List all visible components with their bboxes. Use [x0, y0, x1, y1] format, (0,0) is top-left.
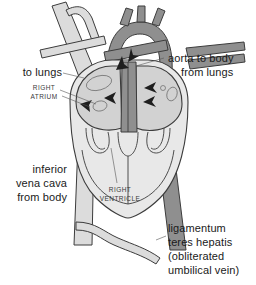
interventricular-septum — [121, 62, 137, 132]
label-right-ventricle-line2: VENTRICLE — [96, 195, 144, 203]
label-inferior-vena-cava-line3: from body — [0, 191, 67, 204]
label-right-atrium-line2: ATRIUM — [24, 93, 64, 101]
aortic-arch-branch-2 — [137, 6, 145, 22]
label-ligamentum-line3: (obliterated — [168, 250, 224, 263]
label-inferior-vena-cava-line2: vena cava — [0, 177, 67, 190]
label-from-lungs: from lungs — [181, 66, 233, 79]
label-ligamentum-line2: teres hepatis — [168, 236, 232, 249]
label-ligamentum-line1: ligamentum — [168, 222, 226, 235]
anatomical-diagram: .pale { fill:#dcdcdc; stroke:#3c3c3c; st… — [0, 0, 256, 285]
label-ligamentum-line4: umbilical vein) — [168, 264, 239, 277]
leader-line-ligamentum — [156, 236, 166, 240]
label-right-atrium-line1: RIGHT — [24, 84, 64, 92]
aortic-arch-branch-3 — [152, 8, 165, 26]
label-aorta-to-body: aorta to body — [168, 52, 234, 65]
label-to-lungs: to lungs — [4, 66, 62, 79]
label-right-ventricle-line1: RIGHT — [98, 186, 142, 194]
label-inferior-vena-cava-line1: inferior — [0, 163, 67, 176]
